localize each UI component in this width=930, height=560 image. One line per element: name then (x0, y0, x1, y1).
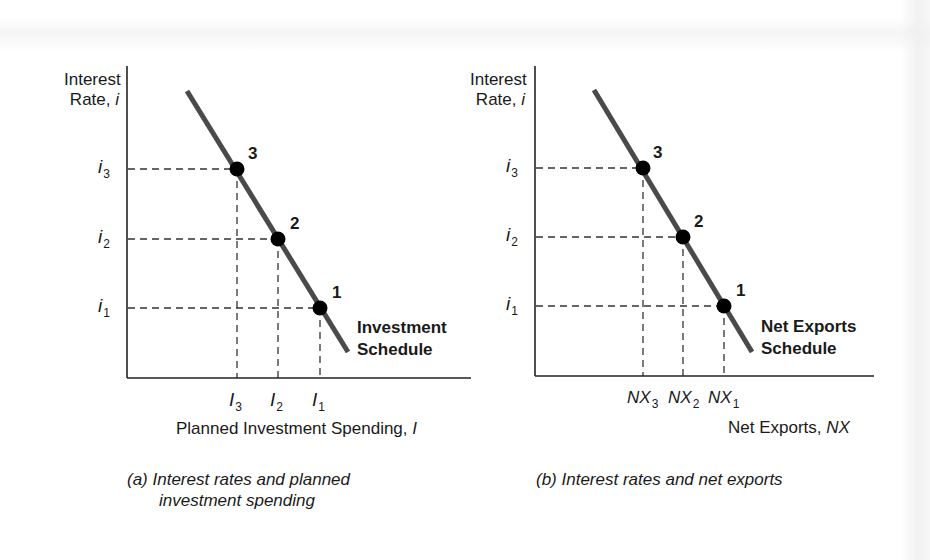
point-2-marker (271, 232, 286, 247)
panel-a-guide-lines (128, 169, 320, 378)
panel-a-x-tick-I3: I3 (229, 390, 242, 412)
net-exports-schedule-curve (594, 90, 752, 352)
panel-a-y-tick-i3: i3 (98, 157, 110, 179)
y-axis-label-prefix: Rate, (70, 90, 115, 109)
panel-b-x-tick-NX3: NX3 (627, 388, 658, 409)
y-axis-variable: i (521, 90, 525, 109)
point-1-marker (313, 301, 328, 316)
panel-b-x-tick-NX1: NX1 (708, 388, 739, 409)
panel-a-x-tick-I2: I2 (270, 390, 283, 412)
panel-b-guide-lines (536, 168, 724, 376)
panel-b-y-tick-i2: i2 (506, 225, 518, 247)
panel-a-y-tick-i2: i2 (98, 227, 110, 249)
panel-a-y-tick-i1: i1 (98, 296, 110, 318)
panel-a-x-tick-I1: I1 (312, 390, 325, 412)
y-axis-label-line1: Interest (470, 70, 525, 90)
y-axis-label-prefix: Rate, (476, 90, 521, 109)
panel-b-point-1-label: 1 (736, 281, 745, 301)
y-axis-label-line1: Interest (64, 70, 119, 90)
panel-a-point-1-label: 1 (332, 283, 341, 303)
panel-a-x-axis-label: Planned Investment Spending, I (176, 419, 417, 439)
net-exports-schedule-label: Net Exports Schedule (761, 316, 856, 360)
panel-b-caption: (b) Interest rates and net exports (536, 469, 783, 490)
panel-b-x-tick-NX2: NX2 (668, 388, 699, 409)
y-axis-variable: i (115, 90, 119, 109)
panel-b-y-axis-label: Interest Rate, i (470, 70, 525, 110)
panel-a-y-axis-label: Interest Rate, i (64, 70, 119, 110)
point-3-marker (230, 162, 245, 177)
point-1-marker (717, 299, 732, 314)
panel-b-point-2-label: 2 (694, 212, 703, 232)
panel-a-caption: (a) Interest rates and planned investmen… (127, 469, 350, 511)
point-3-marker (636, 161, 651, 176)
panel-b-y-tick-i3: i3 (506, 156, 518, 178)
investment-schedule-label: Investment Schedule (357, 317, 447, 361)
panel-a-point-2-label: 2 (290, 214, 299, 234)
panel-b-point-3-label: 3 (653, 143, 662, 163)
panel-b-y-tick-i1: i1 (506, 294, 518, 316)
panel-a-point-3-label: 3 (248, 144, 257, 164)
panel-b-x-axis-label: Net Exports, NX (728, 418, 850, 438)
point-2-marker (676, 230, 691, 245)
